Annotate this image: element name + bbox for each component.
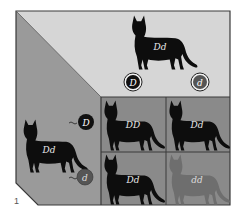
allele-label: D (128, 78, 136, 88)
top-gamete-d: d (191, 73, 209, 91)
offspring-genotype: DD (125, 120, 140, 130)
left-parent-genotype: Dd (42, 145, 56, 155)
allele-label: D (81, 118, 89, 128)
allele-label: d (197, 78, 203, 88)
offspring-genotype: dd (191, 175, 203, 185)
offspring-genotype: Dd (190, 120, 204, 130)
punnett-square-figure: Dd D d Dd D d (0, 0, 239, 216)
top-gamete-D: D (124, 73, 142, 91)
offspring-genotype: Dd (126, 175, 140, 185)
allele-label: d (82, 173, 88, 183)
figure-number: 1 (14, 196, 19, 206)
top-parent-genotype: Dd (153, 42, 167, 52)
